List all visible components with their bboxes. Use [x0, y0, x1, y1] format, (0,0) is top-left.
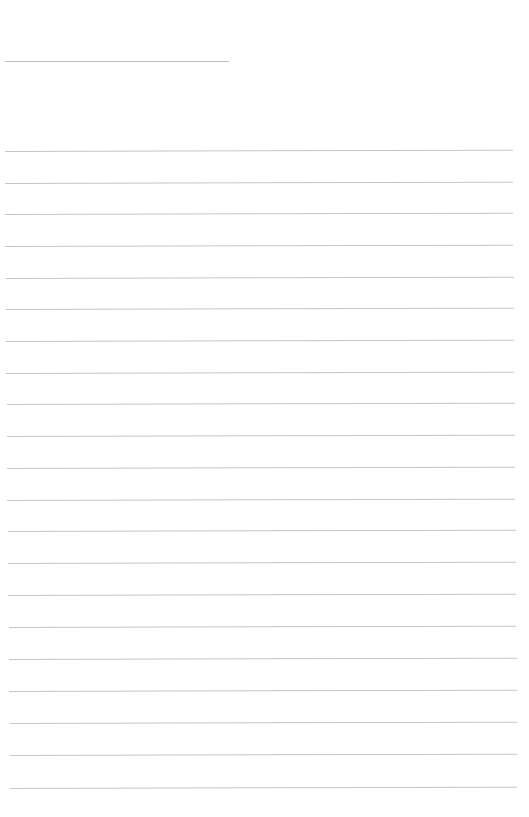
ruled-line — [9, 690, 517, 692]
ruled-line — [7, 435, 515, 437]
ruled-line — [6, 277, 514, 279]
ruled-line — [5, 213, 513, 215]
ruled-line — [6, 372, 514, 374]
ruled-line — [9, 626, 516, 628]
ruled-line — [7, 499, 515, 501]
ruled-line — [10, 722, 517, 724]
ruled-line — [8, 530, 516, 532]
ruled-line — [5, 150, 513, 152]
header-rule-line — [5, 61, 229, 62]
ruled-line — [5, 245, 513, 247]
ruled-line — [6, 308, 514, 310]
ruled-line — [8, 562, 516, 564]
ruled-line — [5, 182, 513, 184]
ruled-line — [6, 340, 514, 342]
ruled-line — [10, 787, 517, 789]
ruled-line — [9, 658, 517, 660]
ruled-line — [7, 467, 515, 469]
lined-page — [0, 0, 529, 817]
ruled-line — [8, 594, 516, 596]
ruled-line — [7, 403, 515, 405]
ruled-line — [10, 754, 517, 756]
